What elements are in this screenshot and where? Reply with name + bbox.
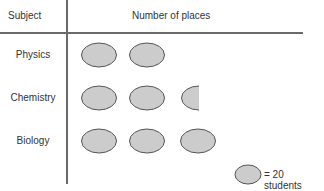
symbol-chemistry-2 [130, 86, 165, 110]
pictogram-symbols [0, 0, 324, 191]
symbol-biology-2 [130, 129, 165, 153]
symbol-chemistry-half [182, 86, 217, 110]
symbol-chemistry-1 [82, 86, 117, 110]
legend-symbol [235, 165, 261, 184]
symbol-biology-1 [82, 129, 117, 153]
symbol-biology-3 [181, 129, 216, 153]
symbol-physics-1 [82, 43, 117, 67]
legend-text: = 20 students [264, 169, 324, 191]
symbol-physics-2 [130, 43, 165, 67]
